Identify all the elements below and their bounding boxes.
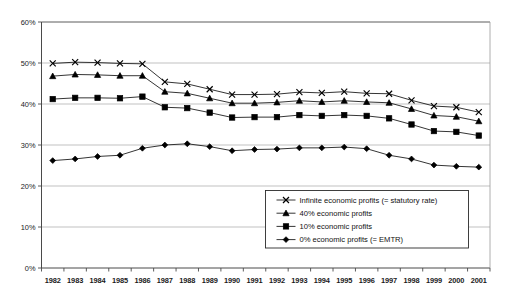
marker-square bbox=[386, 116, 391, 121]
y-axis-tick-label: 40% bbox=[21, 100, 36, 109]
series-line bbox=[53, 144, 479, 167]
marker-diamond bbox=[229, 148, 235, 154]
marker-cross bbox=[476, 109, 482, 115]
marker-square bbox=[319, 113, 324, 118]
x-axis-group: 1982198319841985198619871988198919901991… bbox=[42, 268, 491, 285]
marker-diamond bbox=[386, 152, 392, 158]
marker-diamond bbox=[453, 163, 459, 169]
marker-square bbox=[185, 105, 190, 110]
marker-diamond bbox=[476, 164, 482, 170]
x-axis-tick-label: 2000 bbox=[448, 276, 464, 285]
marker-cross bbox=[207, 86, 213, 92]
x-axis-tick-label: 1989 bbox=[202, 276, 218, 285]
marker-diamond bbox=[252, 147, 258, 153]
marker-diamond bbox=[162, 142, 168, 148]
x-axis-tick-label: 1983 bbox=[67, 276, 83, 285]
series-1 bbox=[50, 59, 482, 115]
marker-square bbox=[252, 114, 257, 119]
legend: Infinite economic profits (= statutory r… bbox=[266, 191, 469, 249]
marker-square bbox=[476, 133, 481, 138]
legend-label: 40% economic profits bbox=[300, 209, 373, 218]
marker-diamond bbox=[296, 145, 302, 151]
x-axis-tick-label: 1994 bbox=[314, 276, 331, 285]
marker-diamond bbox=[95, 154, 101, 160]
legend-entry-1[interactable]: Infinite economic profits (= statutory r… bbox=[277, 196, 438, 205]
marker-square bbox=[229, 115, 234, 120]
x-axis-tick-label: 1998 bbox=[403, 276, 419, 285]
marker-diamond bbox=[184, 141, 190, 147]
marker-square bbox=[72, 95, 77, 100]
x-axis-tick-label: 1999 bbox=[426, 276, 442, 285]
marker-diamond bbox=[409, 156, 415, 162]
series-line bbox=[53, 62, 479, 112]
x-axis-tick-label: 1996 bbox=[359, 276, 375, 285]
marker-diamond bbox=[72, 156, 78, 162]
marker-square bbox=[207, 110, 212, 115]
marker-diamond bbox=[274, 146, 280, 152]
y-axis-tick-label: 20% bbox=[21, 182, 36, 191]
x-axis-tick-label: 1987 bbox=[157, 276, 173, 285]
marker-square bbox=[162, 105, 167, 110]
y-axis-tick-label: 30% bbox=[21, 141, 36, 150]
marker-square bbox=[364, 113, 369, 118]
x-axis-tick-label: 1997 bbox=[381, 276, 397, 285]
x-axis-tick-label: 1991 bbox=[247, 276, 263, 285]
marker-diamond bbox=[50, 158, 56, 164]
y-axis-tick-label: 10% bbox=[21, 223, 36, 232]
x-axis-tick-label: 1985 bbox=[112, 276, 128, 285]
marker-square bbox=[274, 114, 279, 119]
marker-square bbox=[140, 94, 145, 99]
legend-label: Infinite economic profits (= statutory r… bbox=[300, 196, 438, 205]
marker-square bbox=[431, 128, 436, 133]
marker-diamond bbox=[117, 152, 123, 158]
marker-square bbox=[283, 224, 288, 229]
x-axis-tick-label: 2001 bbox=[471, 276, 487, 285]
chart-container: 0%10%20%30%40%50%60%19821983198419851986… bbox=[0, 0, 507, 295]
marker-diamond bbox=[207, 144, 213, 150]
x-axis-tick-label: 1990 bbox=[224, 276, 240, 285]
x-axis-tick-label: 1995 bbox=[336, 276, 352, 285]
marker-triangle bbox=[162, 89, 168, 95]
line-chart: 0%10%20%30%40%50%60%19821983198419851986… bbox=[0, 0, 507, 295]
legend-label: 10% economic profits bbox=[300, 222, 373, 231]
y-axis-tick-label: 60% bbox=[21, 18, 36, 27]
legend-label: 0% economic profits (= EMTR) bbox=[300, 235, 404, 244]
x-axis-tick-label: 1982 bbox=[45, 276, 61, 285]
x-axis-tick-label: 1984 bbox=[90, 276, 107, 285]
y-axis-tick-label: 50% bbox=[21, 59, 36, 68]
marker-square bbox=[117, 96, 122, 101]
series-3 bbox=[50, 94, 481, 138]
marker-cross bbox=[409, 97, 415, 103]
x-axis-tick-label: 1992 bbox=[269, 276, 285, 285]
marker-diamond bbox=[319, 145, 325, 151]
marker-square bbox=[342, 112, 347, 117]
x-axis-tick-label: 1993 bbox=[291, 276, 307, 285]
marker-diamond bbox=[364, 146, 370, 152]
marker-diamond bbox=[431, 162, 437, 168]
series-2 bbox=[50, 71, 482, 123]
x-axis-tick-label: 1986 bbox=[134, 276, 150, 285]
marker-square bbox=[297, 112, 302, 117]
marker-square bbox=[95, 95, 100, 100]
marker-square bbox=[50, 96, 55, 101]
marker-square bbox=[409, 122, 414, 127]
x-axis-tick-label: 1988 bbox=[179, 276, 195, 285]
marker-diamond bbox=[140, 145, 146, 151]
y-axis-tick-label: 0% bbox=[25, 264, 36, 273]
marker-square bbox=[454, 129, 459, 134]
